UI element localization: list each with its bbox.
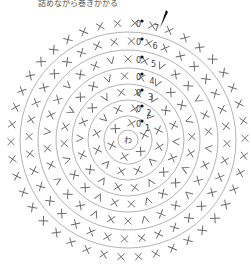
single-crochet-icon — [156, 143, 164, 151]
increase-icon — [185, 116, 193, 124]
single-crochet-icon — [210, 214, 219, 223]
single-crochet-icon — [125, 218, 131, 224]
single-crochet-icon — [111, 124, 120, 133]
single-crochet-icon — [230, 185, 238, 193]
single-crochet-icon — [26, 71, 35, 80]
single-crochet-icon — [161, 106, 170, 115]
magic-ring-label: わ — [124, 136, 132, 145]
single-crochet-icon — [62, 123, 70, 131]
single-crochet-icon — [171, 70, 180, 79]
increase-icon — [77, 135, 84, 142]
increase-icon — [194, 95, 203, 104]
single-crochet-icon — [36, 182, 45, 191]
single-crochet-icon — [165, 26, 173, 34]
increase-icon — [67, 107, 76, 116]
single-crochet-icon — [86, 165, 95, 174]
single-crochet-icon — [49, 45, 58, 54]
slip-stitch-icon — [140, 37, 143, 40]
single-crochet-icon — [170, 223, 179, 232]
single-crochet-icon — [135, 253, 142, 260]
increase-icon — [173, 138, 180, 145]
single-crochet-icon — [121, 73, 128, 80]
single-crochet-icon — [205, 128, 212, 135]
single-crochet-icon — [211, 89, 220, 98]
chain-markers: 01020304050607 — [136, 19, 159, 133]
increase-icon — [205, 145, 212, 152]
single-crochet-icon — [61, 140, 68, 147]
single-crochet-icon — [118, 168, 126, 176]
increase-icon — [101, 93, 110, 102]
round-number: 6 — [153, 42, 158, 51]
increase-icon — [181, 165, 190, 174]
single-crochet-icon — [67, 238, 76, 247]
increase-icon — [91, 210, 99, 218]
single-crochet-icon — [76, 201, 85, 210]
single-crochet-icon — [100, 251, 108, 259]
single-crochet-icon — [8, 139, 14, 145]
increase-icon — [53, 176, 62, 185]
single-crochet-icon — [45, 196, 54, 205]
single-crochet-icon — [91, 62, 99, 70]
single-crochet-icon — [93, 42, 101, 50]
slip-stitch-icon — [140, 119, 143, 122]
single-crochet-icon — [190, 62, 199, 71]
single-crochet-icon — [134, 166, 142, 174]
single-crochet-icon — [32, 99, 40, 107]
single-crochet-icon — [161, 44, 169, 52]
single-crochet-icon — [18, 87, 26, 95]
single-crochet-icon — [125, 56, 131, 62]
chain-stitch-icon: 0 — [136, 38, 141, 47]
single-crochet-icon — [198, 226, 207, 235]
single-crochet-icon — [154, 126, 162, 134]
single-crochet-icon — [83, 245, 91, 253]
single-crochet-icon — [111, 38, 118, 45]
single-crochet-icon — [13, 172, 21, 180]
single-crochet-icon — [93, 130, 101, 138]
increase-icon — [184, 190, 193, 199]
single-crochet-icon — [53, 95, 62, 104]
increase-icon — [95, 193, 104, 202]
single-crochet-icon — [40, 83, 49, 92]
single-crochet-icon — [184, 236, 193, 245]
single-crochet-icon — [88, 103, 97, 112]
single-crochet-icon — [47, 111, 55, 119]
single-crochet-icon — [77, 48, 86, 57]
single-crochet-icon — [128, 120, 136, 128]
single-crochet-icon — [171, 178, 180, 187]
single-crochet-icon — [194, 176, 203, 185]
single-crochet-icon — [108, 141, 116, 149]
single-crochet-icon — [39, 216, 48, 225]
round-number: 4 — [150, 77, 155, 86]
single-crochet-icon — [219, 68, 228, 77]
increase-icon — [104, 75, 112, 83]
single-crochet-icon — [50, 69, 59, 78]
slip-stitch-icon — [140, 104, 143, 107]
round-number: 1 — [145, 124, 150, 133]
single-crochet-icon — [171, 201, 180, 210]
single-crochet-icon — [152, 250, 160, 258]
single-crochet-icon — [70, 170, 79, 179]
single-crochet-icon — [240, 152, 247, 159]
single-crochet-icon — [87, 228, 95, 236]
round-number: 7 — [154, 24, 159, 33]
single-crochet-icon — [111, 199, 119, 207]
single-crochet-icon — [28, 203, 37, 212]
single-crochet-icon — [118, 89, 125, 96]
single-crochet-icon — [26, 150, 33, 157]
single-crochet-icon — [159, 168, 168, 177]
increase-icon — [44, 128, 51, 135]
single-crochet-icon — [118, 253, 125, 260]
single-crochet-icon — [168, 154, 176, 162]
start-arrow-icon — [160, 10, 168, 28]
single-crochet-icon — [63, 190, 72, 199]
single-crochet-icon — [170, 121, 178, 129]
single-crochet-icon — [114, 183, 122, 191]
chain-stitch-icon: 0 — [136, 73, 141, 82]
increase-icon — [107, 57, 115, 65]
single-crochet-icon — [47, 161, 55, 169]
single-crochet-icon — [121, 153, 129, 161]
round-number: 3 — [148, 93, 153, 102]
single-crochet-icon — [104, 233, 112, 241]
single-crochet-icon — [78, 151, 86, 159]
single-crochet-icon — [155, 230, 163, 238]
